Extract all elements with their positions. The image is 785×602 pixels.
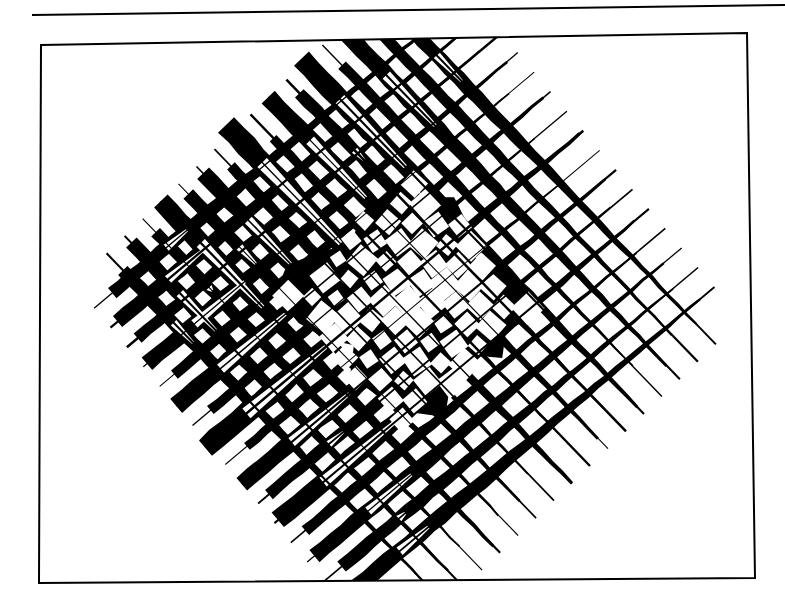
horizontal-rule (32, 4, 785, 18)
figure-plate-page: Two perpendicular bands of parallel tape… (0, 0, 785, 602)
crossed-stripe-artwork (36, 30, 758, 586)
rule-line (32, 5, 785, 15)
figure-frame (36, 30, 758, 586)
